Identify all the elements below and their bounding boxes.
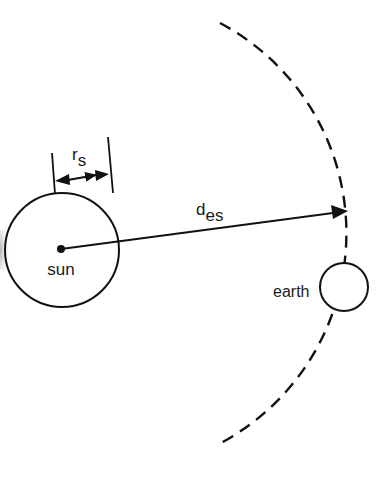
sun-earth-diagram: sun rs des earth	[0, 0, 384, 482]
radius-tick-left	[52, 153, 55, 194]
radius-arrowhead-right	[95, 170, 109, 181]
radius-arrow	[68, 175, 96, 180]
radius-label: rs	[72, 145, 86, 170]
earth-label: earth	[273, 283, 309, 300]
earth-orbit-arc	[217, 23, 346, 445]
radius-tick-right	[108, 137, 113, 193]
radius-arrowhead-left	[55, 174, 70, 185]
distance-label: des	[196, 200, 223, 225]
sun-label: sun	[47, 260, 74, 279]
earth-circle	[320, 263, 368, 311]
